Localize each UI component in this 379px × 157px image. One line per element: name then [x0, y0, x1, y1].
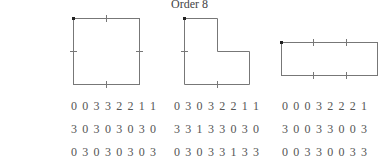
code-digit: 0 — [71, 145, 82, 157]
code-digit: 3 — [219, 122, 230, 137]
code-digit: 3 — [174, 122, 185, 137]
code-digit: 3 — [139, 122, 150, 137]
code-digit: 3 — [316, 122, 327, 137]
code-digit: 2 — [127, 99, 138, 114]
code-digit: 0 — [293, 99, 304, 114]
code-digit: 0 — [338, 122, 349, 137]
start-dot — [183, 17, 186, 20]
code-digit: 0 — [174, 145, 185, 157]
code-digit: 1 — [253, 99, 264, 114]
code-digit: 0 — [230, 122, 241, 137]
code-digit: 3 — [361, 122, 372, 137]
code-digit: 2 — [219, 99, 230, 114]
code-digit: 0 — [94, 145, 105, 157]
code-digit: 3 — [150, 145, 161, 157]
code-digit: 0 — [293, 122, 304, 137]
figure-title: Order 8 — [0, 0, 379, 12]
code-digit: 3 — [316, 145, 327, 157]
l-shape-codes: 03032211 — [174, 99, 264, 114]
square-shape — [70, 15, 143, 88]
code-digit: 0 — [150, 122, 161, 137]
code-digit: 3 — [94, 122, 105, 137]
code-digit: 3 — [242, 122, 253, 137]
code-digit: 3 — [208, 122, 219, 137]
code-digit: 0 — [139, 145, 150, 157]
code-digit: 3 — [185, 122, 196, 137]
code-digit: 3 — [82, 145, 93, 157]
code-digit: 3 — [127, 145, 138, 157]
code-digit: 2 — [116, 99, 127, 114]
start-dot — [280, 41, 283, 44]
code-digit: 3 — [105, 145, 116, 157]
code-digit: 0 — [71, 99, 82, 114]
code-digit: 1 — [139, 99, 150, 114]
code-digit: 0 — [327, 145, 338, 157]
code-digit: 0 — [116, 145, 127, 157]
shape-figures — [0, 0, 379, 92]
code-digit: 0 — [174, 99, 185, 114]
rectangle-codes: 00330033 — [282, 145, 372, 157]
code-digit: 0 — [305, 99, 316, 114]
code-digit: 1 — [197, 122, 208, 137]
code-digit: 2 — [338, 99, 349, 114]
rectangle-codes: 00032221 — [282, 99, 372, 114]
code-digit: 1 — [361, 99, 372, 114]
code-digit: 3 — [94, 99, 105, 114]
code-digit: 2 — [327, 99, 338, 114]
code-digit: 3 — [242, 145, 253, 157]
code-digit: 0 — [197, 145, 208, 157]
code-digit: 0 — [282, 145, 293, 157]
start-dot — [72, 17, 75, 20]
code-digit: 0 — [82, 122, 93, 137]
code-digit: 2 — [230, 99, 241, 114]
code-digit: 3 — [282, 122, 293, 137]
code-digit: 1 — [230, 145, 241, 157]
code-digit: 0 — [127, 122, 138, 137]
code-digit: 0 — [350, 122, 361, 137]
code-digit: 0 — [305, 122, 316, 137]
code-digit: 1 — [150, 99, 161, 114]
code-digit: 3 — [253, 145, 264, 157]
code-digit: 3 — [116, 122, 127, 137]
code-digit: 0 — [293, 145, 304, 157]
code-digit: 3 — [316, 99, 327, 114]
l-shape — [181, 19, 250, 89]
code-digit: 0 — [282, 99, 293, 114]
code-digit: 3 — [185, 99, 196, 114]
code-digit: 3 — [105, 99, 116, 114]
code-digit: 3 — [71, 122, 82, 137]
l-shape-codes: 33133030 — [174, 122, 264, 137]
code-digit: 3 — [219, 145, 230, 157]
square-codes: 00332211 — [71, 99, 161, 114]
code-digit: 2 — [350, 99, 361, 114]
code-digit: 0 — [105, 122, 116, 137]
code-digit: 0 — [338, 145, 349, 157]
code-digit: 3 — [361, 145, 372, 157]
code-digit: 3 — [208, 145, 219, 157]
code-digit: 3 — [327, 122, 338, 137]
code-digit: 0 — [82, 99, 93, 114]
code-digit: 0 — [253, 122, 264, 137]
code-digit: 3 — [350, 145, 361, 157]
rectangle-shape — [282, 39, 378, 79]
code-digit: 0 — [197, 99, 208, 114]
l-shape-codes: 03033133 — [174, 145, 264, 157]
rectangle-codes: 30033003 — [282, 122, 372, 137]
square-codes: 03030303 — [71, 145, 161, 157]
code-digit: 3 — [185, 145, 196, 157]
code-digit: 1 — [242, 99, 253, 114]
code-digit: 3 — [305, 145, 316, 157]
code-digit: 3 — [208, 99, 219, 114]
square-codes: 30303030 — [71, 122, 161, 137]
